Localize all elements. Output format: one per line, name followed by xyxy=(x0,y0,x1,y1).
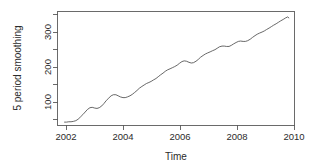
line-chart: 300 200 100 5 period smoothing 2002 2004… xyxy=(0,0,313,168)
chart-screenshot: 300 200 100 5 period smoothing 2002 2004… xyxy=(0,0,313,168)
y-axis-title: 5 period smoothing xyxy=(12,25,23,110)
y-tick-label-200: 200 xyxy=(42,59,53,75)
x-tick-label-2010: 2010 xyxy=(283,131,304,142)
x-axis-title: Time xyxy=(165,151,187,162)
x-tick-label-2004: 2004 xyxy=(112,131,133,142)
x-tick-label-2002: 2002 xyxy=(55,131,76,142)
y-tick-label-300: 300 xyxy=(42,24,53,40)
y-tick-label-100: 100 xyxy=(42,94,53,110)
x-tick-label-2006: 2006 xyxy=(169,131,190,142)
x-tick-label-2008: 2008 xyxy=(226,131,247,142)
